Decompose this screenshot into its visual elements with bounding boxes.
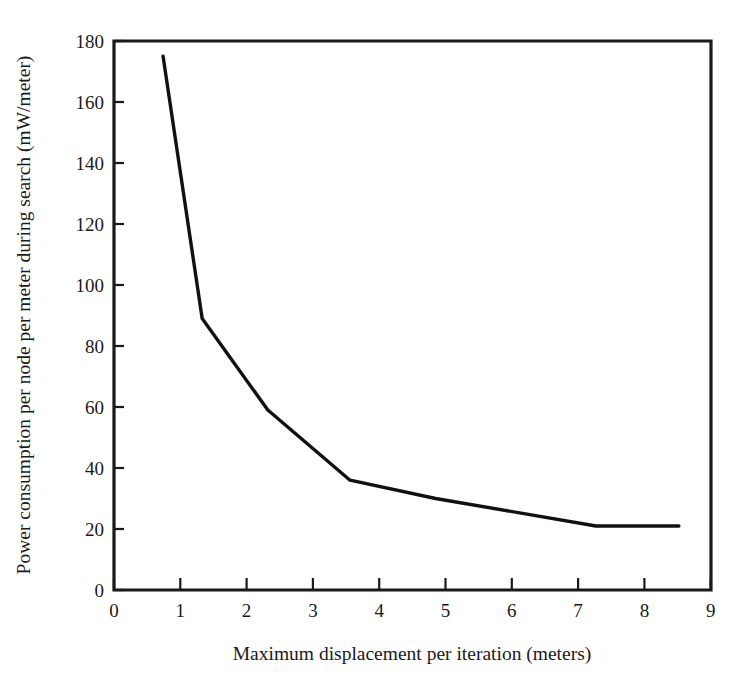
x-tick-label: 9 — [706, 600, 716, 621]
x-tick-label: 2 — [242, 600, 252, 621]
y-tick-label: 0 — [95, 580, 105, 601]
y-tick-label: 160 — [76, 92, 105, 113]
x-tick-label: 7 — [573, 600, 583, 621]
data-series-group — [163, 56, 679, 526]
x-tick-label: 6 — [507, 600, 517, 621]
x-tick-labels: 0 1 2 3 4 5 6 7 8 9 — [109, 600, 715, 621]
y-tick-label: 120 — [76, 214, 105, 235]
chart-figure: 0 20 40 60 80 100 120 140 160 180 0 1 2 … — [0, 0, 749, 680]
y-tick-label: 40 — [85, 458, 104, 479]
y-tick-label: 20 — [85, 519, 104, 540]
x-tick-label: 8 — [640, 600, 650, 621]
plot-frame — [114, 41, 711, 590]
data-line-power-consumption — [163, 56, 679, 526]
y-tick-label: 140 — [76, 153, 105, 174]
y-tick-label: 60 — [85, 397, 104, 418]
x-tick-label: 4 — [374, 600, 384, 621]
x-axis-ticks — [114, 578, 711, 590]
y-tick-labels: 0 20 40 60 80 100 120 140 160 180 — [76, 31, 105, 601]
y-tick-label: 100 — [76, 275, 105, 296]
x-tick-label: 3 — [308, 600, 318, 621]
y-axis-title: Power consumption per node per meter dur… — [13, 56, 35, 575]
y-tick-label: 180 — [76, 31, 105, 52]
x-tick-label: 1 — [176, 600, 186, 621]
line-chart: 0 20 40 60 80 100 120 140 160 180 0 1 2 … — [0, 0, 749, 680]
x-tick-label: 5 — [441, 600, 451, 621]
x-axis-title: Maximum displacement per iteration (mete… — [233, 643, 591, 665]
y-tick-label: 80 — [85, 336, 104, 357]
x-tick-label: 0 — [109, 600, 119, 621]
